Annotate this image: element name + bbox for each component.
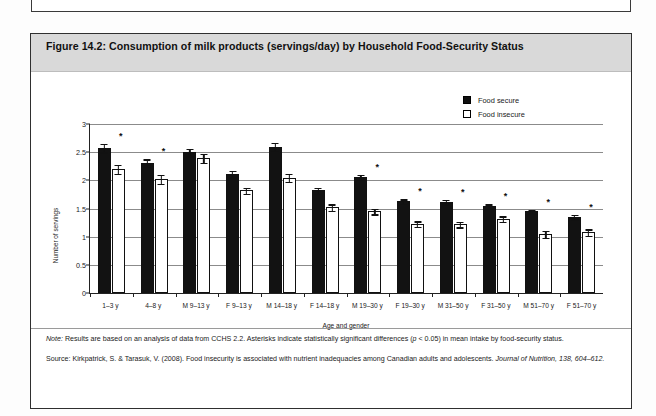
error-bar [243,188,250,196]
significance-asterisk: * [461,189,465,195]
significance-asterisk: * [589,204,593,210]
y-axis-tick-mark [86,208,90,209]
bar-group: * [518,124,561,293]
note-text-2: < 0.05) in mean intake by food-security … [417,335,564,343]
x-axis-tick-mark [475,293,476,297]
significance-asterisk: * [162,148,166,154]
figure-title: Figure 14.2: Consumption of milk product… [46,40,606,54]
x-axis-tick-mark [261,293,262,297]
y-axis-tick-label: 0.5 [76,260,86,269]
title-banner: Figure 14.2: Consumption of milk product… [31,34,631,72]
error-bar [329,204,336,212]
x-axis-tick-label: F 9–13 y [217,302,260,309]
source-pages: , 604–612. [571,355,605,363]
error-bar [101,144,108,154]
significance-asterisk: * [418,188,422,194]
error-bar [357,175,364,182]
x-axis-tick-label: 1–3 y [89,302,132,309]
bar-group [304,124,347,293]
bar-food-secure [397,201,410,293]
bar-food-insecure [240,190,253,293]
error-bar [272,143,279,152]
x-axis-tick-label: F 14–18 y [303,302,346,309]
bar-food-secure [183,152,196,293]
source-block: Source: Kirkpatrick, S. & Tarasuk, V. (2… [46,354,624,365]
y-axis-tick-mark [86,152,90,153]
x-axis-tick-label: M 19–30 y [346,302,389,309]
figure-footnotes: Note: Results are based on an analysis o… [46,334,624,373]
bar-food-insecure [155,179,168,293]
bar-food-secure [98,148,111,293]
bar-group: * [432,124,475,293]
bar-group [176,124,219,293]
bar-food-insecure [411,224,424,293]
x-axis-tick-mark [347,293,348,297]
x-axis-tick-mark [218,293,219,297]
bar-food-insecure [497,219,510,293]
bar-food-secure [141,163,154,293]
bar-food-secure [354,177,367,293]
error-bar [414,221,421,228]
source-text: Kirkpatrick, S. & Tarasuk, V. (2008). Fo… [70,355,495,363]
bar-group: * [90,124,133,293]
x-axis-tick-mark [133,293,134,297]
x-axis-tick-label: F 31–50 y [474,302,517,309]
figure-page: Figure 14.2: Consumption of milk product… [0,0,656,416]
significance-asterisk: * [547,199,551,205]
bar-food-insecure [368,211,381,293]
bar-food-secure [312,190,325,293]
y-axis-tick-label: 1.5 [76,204,86,213]
top-partial-box [31,0,631,12]
plot-region: ******** 00.511.522.53 [89,124,603,294]
bar-food-secure [525,211,538,293]
error-bar [585,229,592,237]
bar-food-insecure [283,178,296,293]
footnote-divider [31,328,631,329]
y-axis-tick-mark [86,180,90,181]
bar-group: * [347,124,390,293]
bar-food-insecure [539,234,552,293]
error-bar [542,231,549,239]
error-bar [371,209,378,216]
note-label: Note: [46,335,63,343]
x-axis-tick-mark [304,293,305,297]
y-axis-tick-mark [86,264,90,265]
error-bar [115,165,122,175]
note-block: Note: Results are based on an analysis o… [46,334,624,345]
y-axis-tick-mark [86,124,90,125]
error-bar [315,188,322,195]
x-axis-tick-label: M 31–50 y [432,302,475,309]
x-axis-tick-label: F 51–70 y [560,302,603,309]
x-axis-tick-label: M 14–18 y [260,302,303,309]
significance-asterisk: * [119,133,123,139]
bar-food-insecure [326,207,339,293]
bar-food-insecure [582,232,595,293]
bar-group: * [560,124,603,293]
y-axis-tick-mark [86,236,90,237]
bar-food-secure [568,217,581,293]
error-bar [500,216,507,223]
bar-food-secure [226,174,239,293]
x-axis-tick-mark [176,293,177,297]
bar-group: * [133,124,176,293]
error-bar [571,215,578,221]
error-bar [158,175,165,185]
error-bar [286,174,293,183]
note-text: Results are based on an analysis of data… [63,335,413,343]
bar-food-secure [483,206,496,293]
x-axis-tick-mark [518,293,519,297]
error-bar [443,200,450,206]
bar-food-secure [440,202,453,293]
x-axis-tick-label: F 19–30 y [389,302,432,309]
x-axis-tick-mark [432,293,433,297]
x-axis-tick-label: M 9–13 y [175,302,218,309]
bar-food-insecure [197,158,210,293]
x-axis-tick-label: M 51–70 y [517,302,560,309]
x-axis-tick-labels: 1–3 y4–8 yM 9–13 yF 9–13 yM 14–18 yF 14–… [89,302,603,309]
y-axis-tick-mark [86,293,90,294]
bar-group [218,124,261,293]
error-bar [457,222,464,229]
bar-group: * [389,124,432,293]
x-axis-tick-mark [560,293,561,297]
figure-container: Figure 14.2: Consumption of milk product… [30,33,632,409]
